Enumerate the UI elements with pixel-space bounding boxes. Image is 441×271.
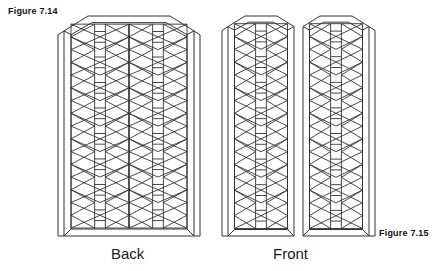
figure-label-714: Figure 7.14 (8, 6, 58, 16)
back-panel-edge-right-top (194, 31, 200, 35)
front-door-left-edge-left-top (222, 27, 228, 31)
back-panel-edge-left-top (58, 31, 64, 35)
lattice-panels-drawing (0, 0, 441, 271)
caption-front: Front (273, 245, 308, 262)
figure-label-715: Figure 7.15 (379, 228, 429, 238)
figure-canvas: Figure 7.14 Figure 7.15 Back Front (0, 0, 441, 271)
caption-back: Back (111, 245, 144, 262)
front-door-right-edge-right-top (369, 27, 375, 31)
